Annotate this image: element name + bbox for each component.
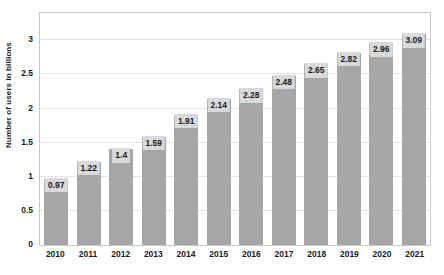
bar-value-label: 1.59 xyxy=(142,136,165,151)
bar-value-label: 2.65 xyxy=(305,63,328,78)
bar[interactable]: 1.4 xyxy=(109,149,133,245)
bar-value-label: 2.82 xyxy=(337,52,360,67)
bar-value-label: 0.97 xyxy=(45,178,68,193)
y-axis-tick-labels: 00.511.522.53 xyxy=(0,0,38,275)
x-axis-tick-label: 2019 xyxy=(333,249,366,267)
bar-slot: 1.22 xyxy=(73,13,106,245)
x-axis-tick-label: 2012 xyxy=(104,249,137,267)
x-axis-tick-label: 2017 xyxy=(268,249,301,267)
bar-slot: 2.96 xyxy=(365,13,398,245)
bar-value-label: 2.14 xyxy=(207,98,230,113)
bar[interactable]: 2.28 xyxy=(239,89,263,245)
x-axis-tick-label: 2021 xyxy=(398,249,431,267)
bar-slot: 0.97 xyxy=(40,13,73,245)
bar-slot: 1.4 xyxy=(105,13,138,245)
y-axis-tick-label: 2.5 xyxy=(21,68,33,78)
bar-slot: 2.48 xyxy=(268,13,301,245)
x-axis-tick-label: 2013 xyxy=(137,249,170,267)
bar[interactable]: 1.91 xyxy=(174,115,198,245)
y-axis-tick-label: 3 xyxy=(28,34,33,44)
bar[interactable]: 1.22 xyxy=(77,162,101,245)
bar[interactable]: 2.82 xyxy=(337,53,361,245)
x-axis-tick-labels: 2010201120122013201420152016201720182019… xyxy=(39,249,431,267)
plot-area: 0.971.221.41.591.912.142.282.482.652.822… xyxy=(39,12,431,246)
bar-value-label: 1.4 xyxy=(112,148,130,163)
bar-slot: 2.28 xyxy=(235,13,268,245)
bar[interactable]: 0.97 xyxy=(44,179,68,245)
bar-slot: 2.65 xyxy=(300,13,333,245)
y-axis-tick-label: 2 xyxy=(28,103,33,113)
y-axis-tick-label: 1.5 xyxy=(21,137,33,147)
bar-chart: Number of users in billions 00.511.522.5… xyxy=(0,0,444,275)
bar-value-label: 2.96 xyxy=(370,42,393,57)
x-axis-tick-label: 2018 xyxy=(300,249,333,267)
bar-slot: 1.59 xyxy=(138,13,171,245)
x-axis-tick-label: 2010 xyxy=(39,249,72,267)
y-axis-tick-label: 1 xyxy=(28,171,33,181)
x-axis-tick-label: 2020 xyxy=(366,249,399,267)
bar[interactable]: 3.09 xyxy=(402,34,426,245)
x-axis-tick-label: 2015 xyxy=(202,249,235,267)
bar[interactable]: 1.59 xyxy=(142,137,166,245)
bar[interactable]: 2.65 xyxy=(304,64,328,245)
bar-series: 0.971.221.41.591.912.142.282.482.652.822… xyxy=(40,13,430,245)
bar-value-label: 1.22 xyxy=(77,161,100,176)
y-axis-tick-label: 0.5 xyxy=(21,205,33,215)
bar-slot: 1.91 xyxy=(170,13,203,245)
bar-value-label: 1.91 xyxy=(175,114,198,129)
bar-value-label: 2.48 xyxy=(272,75,295,90)
bar-slot: 2.82 xyxy=(333,13,366,245)
bar[interactable]: 2.14 xyxy=(207,99,231,245)
y-axis-tick-label: 0 xyxy=(28,239,33,249)
bar-value-label: 2.28 xyxy=(240,88,263,103)
bar-slot: 3.09 xyxy=(398,13,431,245)
bar-slot: 2.14 xyxy=(203,13,236,245)
x-axis-tick-label: 2016 xyxy=(235,249,268,267)
bar[interactable]: 2.96 xyxy=(369,43,393,245)
x-axis-tick-label: 2011 xyxy=(72,249,105,267)
x-axis-tick-label: 2014 xyxy=(170,249,203,267)
bar[interactable]: 2.48 xyxy=(272,76,296,245)
bar-value-label: 3.09 xyxy=(402,33,425,48)
